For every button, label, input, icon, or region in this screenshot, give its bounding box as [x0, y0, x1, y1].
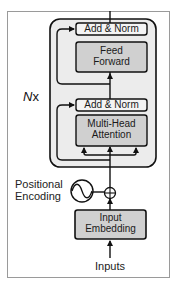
multi-head-attention-line2: Attention — [76, 130, 147, 141]
positional-encoding-line2: Encoding — [15, 191, 75, 203]
add-norm-bottom-label: Add & Norm — [76, 100, 147, 111]
feed-forward-label: Feed Forward — [76, 46, 147, 67]
repeat-count-label: Nx — [21, 90, 41, 104]
transformer-encoder-diagram — [0, 0, 175, 283]
add-norm-top-label: Add & Norm — [76, 24, 147, 35]
input-embedding-line1: Input — [75, 213, 146, 224]
feed-forward-line2: Forward — [76, 57, 147, 68]
feed-forward-line1: Feed — [76, 46, 147, 57]
input-embedding-line2: Embedding — [75, 224, 146, 235]
multi-head-attention-line1: Multi-Head — [76, 119, 147, 130]
positional-encoding-line1: Positional — [15, 179, 75, 191]
positional-encoding-label: Positional Encoding — [15, 179, 75, 202]
add-circle-icon — [105, 188, 116, 199]
input-embedding-label: Input Embedding — [75, 213, 146, 234]
repeat-x: x — [32, 89, 39, 104]
multi-head-attention-label: Multi-Head Attention — [76, 119, 147, 140]
inputs-label: Inputs — [85, 261, 135, 273]
